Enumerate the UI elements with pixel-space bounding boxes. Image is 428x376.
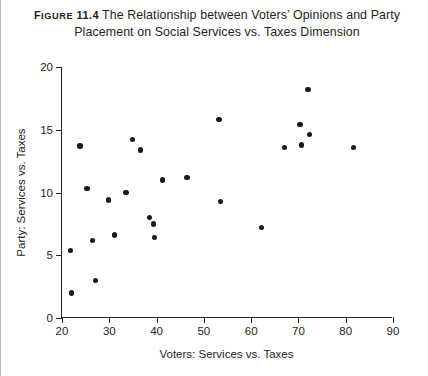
x-tick-label: 70 <box>292 325 305 337</box>
scatter-point <box>84 186 89 191</box>
y-tick-label: 15 <box>40 124 53 136</box>
x-axis-title: Voters: Services vs. Taxes <box>61 348 392 360</box>
scatter-point <box>130 137 135 142</box>
x-tick-mark <box>157 317 158 323</box>
scatter-point <box>138 147 143 152</box>
scatter-point <box>282 145 287 150</box>
y-tick-label: 5 <box>47 249 53 261</box>
scatter-point <box>69 290 74 295</box>
scatter-point <box>259 225 264 230</box>
scatter-point <box>351 145 356 150</box>
scatter-point <box>147 215 152 220</box>
scatter-point <box>305 87 310 92</box>
x-tick-mark <box>62 317 63 323</box>
scatter-point <box>90 238 95 243</box>
x-tick-label: 20 <box>56 325 69 337</box>
scatter-point <box>297 122 302 127</box>
figure-number-label: FIGURE 11.4 <box>34 9 99 21</box>
x-tick-label: 30 <box>103 325 116 337</box>
x-tick-mark <box>346 317 347 323</box>
scatter-plot-area: 05101520 2030405060708090 <box>61 67 392 318</box>
scatter-point <box>299 142 304 147</box>
scatter-point <box>123 190 128 195</box>
x-tick-label: 40 <box>150 325 163 337</box>
caption-text-line-1: The Relationship between Voters’ Opinion… <box>102 8 400 22</box>
x-tick-label: 60 <box>245 325 258 337</box>
x-tick-mark <box>251 317 252 323</box>
scatter-point <box>77 143 82 148</box>
scatter-point <box>68 248 73 253</box>
scatter-point <box>152 235 157 240</box>
scatter-point <box>93 278 98 283</box>
y-tick-label: 10 <box>40 187 53 199</box>
figure-container: FIGURE 11.4The Relationship between Vote… <box>0 0 428 376</box>
x-tick-mark <box>393 317 394 323</box>
scatter-point <box>106 197 111 202</box>
x-tick-label: 80 <box>339 325 352 337</box>
figure-caption: FIGURE 11.4The Relationship between Vote… <box>15 7 419 40</box>
x-tick-mark <box>204 317 205 323</box>
x-tick-label: 50 <box>197 325 210 337</box>
x-tick-mark <box>298 317 299 323</box>
scatter-point <box>184 175 189 180</box>
caption-line-2: Placement on Social Services vs. Taxes D… <box>15 24 419 40</box>
x-tick-label: 90 <box>387 325 400 337</box>
y-tick-label: 20 <box>40 61 53 73</box>
x-tick-mark <box>109 317 110 323</box>
y-tick-label: 0 <box>47 312 53 324</box>
data-points-layer <box>62 67 392 317</box>
y-axis-title: Party: Services vs. Taxes <box>15 67 29 318</box>
scatter-point <box>160 177 165 182</box>
scatter-point <box>307 132 312 137</box>
scatter-point <box>151 221 156 226</box>
scatter-point <box>216 117 221 122</box>
scatter-point <box>112 232 117 237</box>
caption-line-1: FIGURE 11.4The Relationship between Vote… <box>15 7 419 24</box>
scatter-point <box>218 199 223 204</box>
